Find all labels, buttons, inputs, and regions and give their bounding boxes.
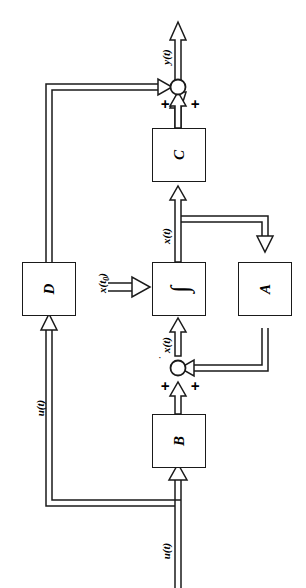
wire-sum-to-integrator — [170, 318, 186, 356]
wire-a-to-sum — [180, 328, 268, 376]
plus-sign-state-right: + — [187, 382, 202, 391]
signal-label-x-dot-accent: · — [158, 352, 162, 363]
block-d: D — [22, 262, 76, 316]
block-b-label: B — [172, 436, 187, 446]
summing-junction-state-circle — [171, 361, 186, 376]
signal-label-y: y(t) — [161, 49, 172, 64]
signal-label-u-feedback: u(t) — [35, 400, 46, 417]
signal-label-u-input: u(t) — [161, 543, 172, 560]
signal-label-x-initial: x(t0) — [97, 273, 111, 293]
wire-x-to-c — [170, 186, 186, 262]
block-a: A — [238, 262, 292, 316]
wire-initial-condition — [108, 277, 150, 297]
signal-label-x-initial-close: ) — [96, 273, 108, 277]
block-c: C — [152, 128, 206, 182]
plus-sign-output-right: + — [187, 100, 202, 109]
block-integrator: ∫ — [152, 262, 206, 316]
signal-label-x: x(t) — [161, 228, 172, 244]
block-a-label: A — [258, 284, 273, 294]
block-integrator-label: ∫ — [167, 286, 192, 293]
plus-sign-state-left: + — [157, 382, 172, 391]
block-diagram-figure: C ∫ A B D y(t) x(t) x(t) · x(t0) u(t) u(… — [0, 0, 306, 588]
signal-label-x-initial-sub: 0 — [102, 277, 111, 281]
wire-x-branch-to-a — [181, 216, 273, 252]
wire-output-y — [170, 22, 186, 85]
plus-sign-output-left: + — [157, 100, 172, 109]
summing-junction-output-circle — [171, 80, 186, 95]
signal-label-x-initial-main: x(t — [96, 281, 108, 293]
block-b: B — [152, 414, 206, 468]
wire-u-input — [169, 464, 187, 588]
block-d-label: D — [42, 284, 57, 295]
block-c-label: C — [172, 150, 187, 160]
signal-label-x-dot: x(t) — [161, 337, 172, 353]
